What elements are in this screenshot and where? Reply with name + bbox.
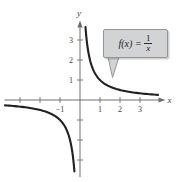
y-axis-arrow [77, 21, 82, 28]
fraction: 1 x [144, 34, 153, 54]
figure-canvas: −1123123xy f(x) = 1 x [0, 0, 177, 182]
function-lhs: f(x) [118, 38, 132, 49]
curve-negative-branch [5, 105, 74, 171]
equals-sign: = [135, 38, 141, 49]
x-tick-label: 1 [98, 105, 102, 114]
function-callout: f(x) = 1 x [103, 29, 168, 58]
y-tick-label: 3 [69, 36, 73, 45]
x-axis-label: x [167, 95, 172, 105]
fraction-numerator: 1 [144, 34, 153, 43]
callout-pointer [108, 57, 119, 78]
x-tick-label: 2 [118, 105, 122, 114]
y-axis-label: y [76, 8, 81, 18]
x-axis-arrow [159, 97, 166, 102]
y-tick-label: 2 [69, 56, 73, 65]
y-tick-label: 1 [69, 76, 73, 85]
plot-svg: −1123123xy [0, 0, 177, 182]
x-tick-label: 3 [138, 105, 142, 114]
fraction-denominator: x [144, 43, 152, 53]
x-tick-label: −1 [56, 105, 65, 114]
